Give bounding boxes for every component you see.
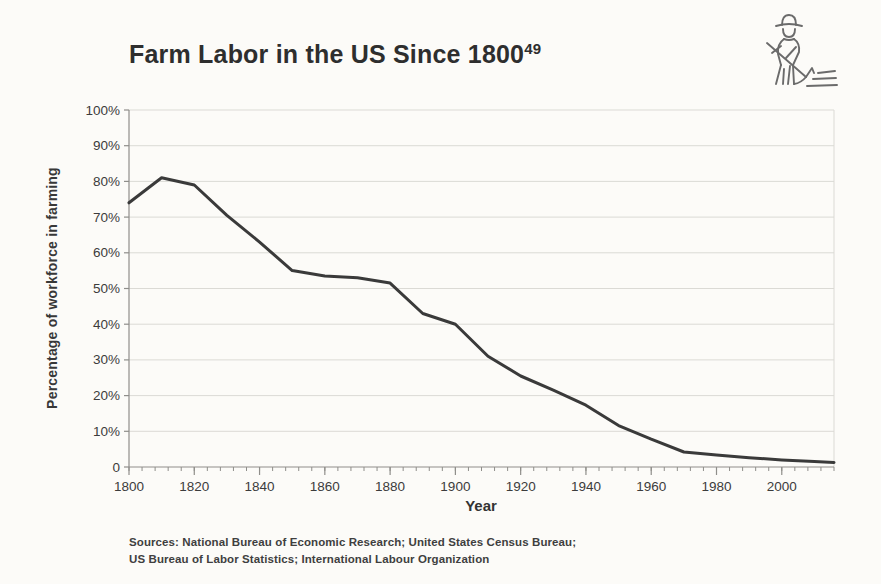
x-tick-label: 2000	[767, 479, 797, 494]
x-tick-label: 1980	[701, 479, 731, 494]
y-tick-label: 30%	[93, 352, 120, 367]
line-chart: 100%90%80%70%60%50%40%30%20%10%018001820…	[0, 0, 881, 584]
x-tick-label: 1940	[571, 479, 601, 494]
x-tick-label: 1860	[310, 479, 340, 494]
y-tick-label: 100%	[85, 103, 120, 118]
x-axis-title: Year	[465, 497, 497, 514]
x-tick-label: 1840	[245, 479, 275, 494]
x-tick-label: 1960	[636, 479, 666, 494]
y-tick-label: 20%	[93, 388, 120, 403]
x-tick-label: 1880	[375, 479, 405, 494]
x-axis: 1800182018401860188019001920194019601980…	[114, 467, 834, 494]
y-tick-label: 10%	[93, 424, 120, 439]
sources-line-2: US Bureau of Labor Statistics; Internati…	[129, 551, 576, 568]
sources-line-1: Sources: National Bureau of Economic Res…	[129, 534, 576, 551]
y-axis: 100%90%80%70%60%50%40%30%20%10%0	[85, 103, 129, 475]
x-tick-label: 1800	[114, 479, 144, 494]
sources-note: Sources: National Bureau of Economic Res…	[129, 534, 576, 568]
y-tick-label: 60%	[93, 245, 120, 260]
y-tick-label: 80%	[93, 174, 120, 189]
page: Farm Labor in the US Since 180049	[0, 0, 881, 584]
x-tick-label: 1820	[179, 479, 209, 494]
x-tick-label: 1920	[506, 479, 536, 494]
y-tick-label: 90%	[93, 138, 120, 153]
x-tick-label: 1900	[440, 479, 470, 494]
y-tick-label: 70%	[93, 210, 120, 225]
farm-labor-line-series	[129, 178, 834, 463]
y-tick-label: 40%	[93, 317, 120, 332]
gridlines	[129, 110, 834, 467]
y-tick-label: 50%	[93, 281, 120, 296]
y-tick-label: 0	[112, 460, 120, 475]
